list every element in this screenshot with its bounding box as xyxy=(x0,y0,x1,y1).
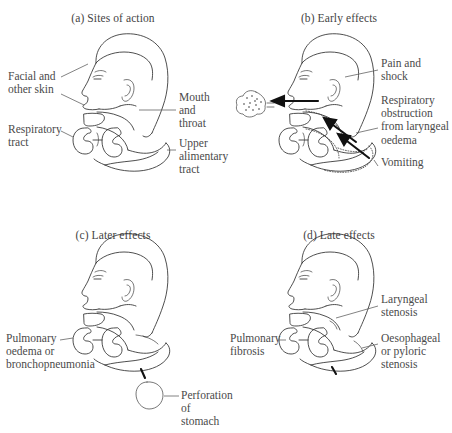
label-pulmonary-fibrosis: Pulmonary fibrosis xyxy=(230,332,280,358)
leader-lines xyxy=(279,306,378,348)
lungs xyxy=(279,128,328,157)
stomach xyxy=(300,341,376,374)
label-pulmonary-oedema: Pulmonary oedema or bronchopneumonia xyxy=(6,332,95,372)
label-respiratory-obstruction: Respiratory obstruction from laryngeal o… xyxy=(381,94,449,147)
flow-arrows xyxy=(272,96,369,158)
panel-sites-of-action: (a) Sites of action xyxy=(0,0,226,216)
figure-sheet: (a) Sites of action xyxy=(0,0,452,433)
label-laryngeal-stenosis: Laryngeal stenosis xyxy=(381,293,428,319)
stomach xyxy=(94,143,170,171)
lungs-fibrosis xyxy=(279,328,328,357)
perforation-leak xyxy=(136,369,163,409)
lungs xyxy=(73,128,122,157)
label-facial-and-other-skin: Facial and other skin xyxy=(8,70,56,96)
label-vomiting: Vomiting xyxy=(381,156,424,169)
stomach xyxy=(94,335,170,371)
label-upper-alimentary-tract: Upper alimentary tract xyxy=(179,137,228,177)
panel-d-artwork xyxy=(226,217,452,433)
panel-early-effects: (b) Early effects xyxy=(226,0,452,216)
vomit-cloud xyxy=(236,91,274,117)
panel-late-effects: (d) Late effects xyxy=(226,217,452,433)
panel-later-effects: (c) Later effects xyxy=(0,217,226,433)
head-profile xyxy=(82,34,168,137)
label-respiratory-tract: Respiratory tract xyxy=(8,123,62,149)
label-mouth-and-throat: Mouth and throat xyxy=(179,91,226,131)
label-perforation-of-stomach: Perforation of stomach xyxy=(181,389,233,429)
label-pain-and-shock: Pain and shock xyxy=(381,57,421,83)
stomach xyxy=(300,143,376,172)
label-oesophageal-stenosis: Oesophageal or pyloric stenosis xyxy=(381,332,440,372)
head-profile xyxy=(82,234,168,337)
